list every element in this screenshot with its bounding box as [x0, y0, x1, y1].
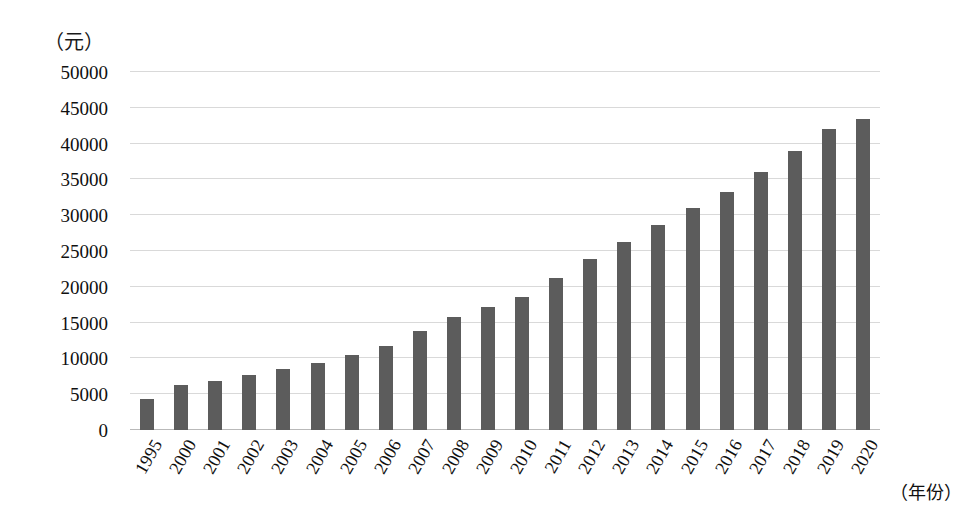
x-axis-tick-label: 2020: [841, 436, 883, 488]
x-axis-tick-label: 2016: [705, 436, 747, 488]
x-axis-tick-label: 2006: [364, 436, 406, 488]
x-axis-tick-label: 2004: [296, 436, 338, 488]
x-axis-tick-label: 2010: [500, 436, 542, 488]
bar: [140, 399, 154, 430]
bar: [822, 129, 836, 430]
bar: [242, 375, 256, 430]
bar: [720, 192, 734, 430]
x-axis-tick-label: 2015: [671, 436, 713, 488]
y-axis-tick-label: 30000: [61, 206, 109, 225]
bar: [617, 242, 631, 430]
x-axis-tick-label: 2001: [193, 436, 235, 488]
y-axis-tick-label: 40000: [61, 134, 109, 153]
y-axis-tick-label: 0: [99, 421, 109, 440]
x-axis-tick-label: 2019: [807, 436, 849, 488]
x-axis-tick-label: 2003: [261, 436, 303, 488]
bar: [174, 385, 188, 430]
x-axis-tick-label: 2018: [773, 436, 815, 488]
x-axis-tick-label: 2008: [432, 436, 474, 488]
y-axis-tick-label: 20000: [61, 277, 109, 296]
bar: [754, 172, 768, 430]
bar-series: [130, 72, 880, 430]
bar: [549, 278, 563, 431]
x-axis-caption: （年份）: [890, 478, 962, 504]
bar: [311, 363, 325, 430]
y-axis-tick-label: 10000: [61, 349, 109, 368]
x-axis-tick-label: 2012: [568, 436, 610, 488]
y-axis-unit-label: （元）: [44, 26, 104, 55]
bar: [276, 369, 290, 430]
bar: [686, 208, 700, 430]
x-axis-tick-label: 2017: [739, 436, 781, 488]
x-axis-tick-label: 2007: [398, 436, 440, 488]
bar-chart: （元） 500004500040000350003000025000200001…: [0, 0, 980, 530]
x-axis-tick-label: 2013: [602, 436, 644, 488]
y-axis-tick-label: 25000: [61, 242, 109, 261]
bar: [651, 225, 665, 430]
y-axis-tick-label: 45000: [61, 98, 109, 117]
x-axis-tick-labels: 1995200020012002200320042005200620072008…: [130, 430, 880, 525]
x-axis-tick-label: 2009: [466, 436, 508, 488]
y-axis-tick-label: 15000: [61, 313, 109, 332]
bar: [345, 355, 359, 430]
bar: [208, 381, 222, 430]
x-axis-tick-label: 2000: [159, 436, 201, 488]
y-axis-tick-label: 35000: [61, 170, 109, 189]
x-axis-tick-label: 2014: [636, 436, 678, 488]
bar: [481, 307, 495, 430]
y-axis-tick-label: 50000: [61, 63, 109, 82]
y-axis-tick-label: 5000: [70, 385, 108, 404]
x-axis-tick-label: 1995: [125, 436, 167, 488]
bar: [583, 259, 597, 430]
bar: [413, 331, 427, 430]
plot-area: [130, 72, 880, 430]
bar: [515, 297, 529, 430]
bar: [379, 346, 393, 430]
x-axis-tick-label: 2011: [534, 436, 576, 488]
bar: [447, 317, 461, 430]
x-axis-tick-label: 2005: [330, 436, 372, 488]
y-axis-tick-labels: 5000045000400003500030000250002000015000…: [0, 72, 122, 430]
x-axis-tick-label: 2002: [227, 436, 269, 488]
bar: [856, 119, 870, 430]
bar: [788, 151, 802, 430]
